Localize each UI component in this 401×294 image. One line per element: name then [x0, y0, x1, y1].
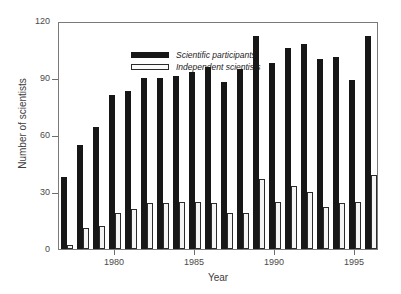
- x-tick-label-1995: 1995: [334, 257, 374, 267]
- bar-independent-1985: [195, 202, 201, 250]
- legend-label-participants: Scientific participants: [176, 50, 256, 60]
- bar-independent-1988: [243, 213, 249, 249]
- chart-screenshot: Number of scientists 0306090120 Scientif…: [0, 0, 401, 294]
- y-tick-label-90: 90: [40, 74, 50, 83]
- x-tick-label-1980: 1980: [94, 257, 134, 267]
- bar-independent-1989: [259, 179, 265, 249]
- bar-independent-1987: [227, 213, 233, 249]
- legend-item-participants: Scientific participants: [131, 49, 261, 60]
- y-tick-label-60: 60: [40, 131, 50, 140]
- legend-label-independent: Independent scientists: [176, 62, 261, 72]
- y-tick-label-120: 120: [35, 17, 50, 26]
- bar-independent-1981: [131, 209, 137, 249]
- bar-independent-1990: [275, 202, 281, 250]
- bar-independent-1991: [291, 186, 297, 249]
- x-tick-1990: [274, 250, 275, 255]
- chart-legend: Scientific participants Independent scie…: [131, 49, 261, 73]
- bar-independent-1995: [355, 202, 361, 250]
- bar-independent-1978: [83, 228, 89, 249]
- bar-independent-1980: [115, 213, 121, 249]
- legend-item-independent: Independent scientists: [131, 61, 261, 72]
- bar-independent-1994: [339, 203, 345, 249]
- bar-independent-1986: [211, 203, 217, 249]
- x-tick-1985: [194, 250, 195, 255]
- plot-area: Scientific participants Independent scie…: [58, 22, 378, 250]
- bar-independent-1996: [371, 175, 377, 249]
- bar-independent-1979: [99, 226, 105, 249]
- y-tick-label-0: 0: [45, 245, 50, 254]
- y-tick-label-30: 30: [40, 188, 50, 197]
- solid-black-swatch: [131, 52, 169, 58]
- bar-independent-1983: [163, 203, 169, 249]
- bar-independent-1982: [147, 203, 153, 249]
- x-tick-label-1990: 1990: [254, 257, 294, 267]
- bar-independent-1977: [67, 245, 73, 249]
- bar-independent-1992: [307, 192, 313, 249]
- bar-independent-1984: [179, 202, 185, 250]
- bar-independent-1993: [323, 207, 329, 249]
- dotted-open-swatch: [131, 64, 169, 70]
- y-axis-title: Number of scientists: [17, 64, 28, 184]
- x-tick-1980: [114, 250, 115, 255]
- bar-participants-1977: [61, 177, 67, 249]
- x-tick-1995: [354, 250, 355, 255]
- x-tick-label-1985: 1985: [174, 257, 214, 267]
- x-axis-title: Year: [58, 272, 378, 283]
